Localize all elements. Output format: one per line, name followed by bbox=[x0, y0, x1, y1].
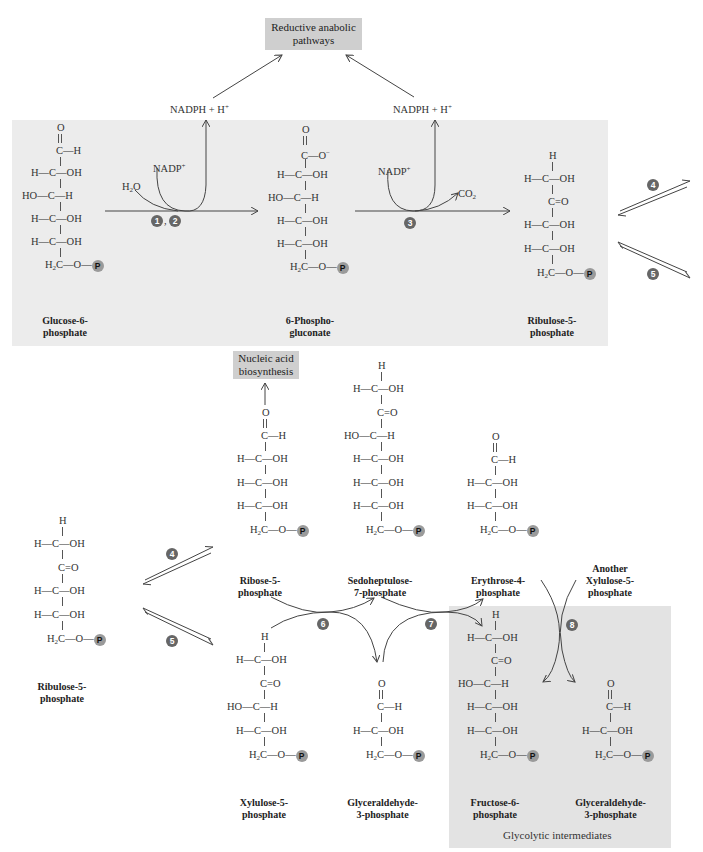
step-separator: , bbox=[164, 215, 167, 227]
nadph-product-1: NADPH + H+ bbox=[170, 101, 229, 116]
phosphate-badge: P bbox=[92, 260, 104, 272]
ribose-5-phosphate-label: Ribose-5-phosphate bbox=[225, 575, 295, 599]
ribulose-5-phosphate-top-label: Ribulose-5-phosphate bbox=[512, 315, 592, 339]
phosphate-badge: P bbox=[413, 750, 425, 762]
step-8-marker: 8 bbox=[566, 619, 578, 631]
h2o-reactant: H2O bbox=[122, 181, 141, 196]
step-2-marker: 2 bbox=[169, 215, 181, 227]
phosphate-badge: P bbox=[527, 750, 539, 762]
sedoheptulose-7-phosphate-label: Sedoheptulose-7-phosphate bbox=[335, 575, 425, 599]
step-3-marker: 3 bbox=[404, 217, 416, 229]
nadph-product-2: NADPH + H+ bbox=[393, 101, 452, 116]
glyceraldehyde-3-phosphate-b-label: Glyceraldehyde-3-phosphate bbox=[563, 797, 658, 821]
erythrose-4-phosphate-label: Erythrose-4-phosphate bbox=[458, 575, 538, 599]
6-phosphogluconate-label: 6-Phospho-gluconate bbox=[270, 315, 350, 339]
step-5-marker-bottom: 5 bbox=[166, 635, 178, 647]
phosphate-badge: P bbox=[642, 750, 654, 762]
step-4-marker-top: 4 bbox=[647, 179, 659, 191]
ribulose-5-phosphate-bottom-label: Ribulose-5-phosphate bbox=[22, 681, 102, 705]
phosphate-badge: P bbox=[527, 525, 539, 537]
step-7-marker: 7 bbox=[425, 618, 437, 630]
phosphate-badge: P bbox=[296, 750, 308, 762]
glyceraldehyde-3-phosphate-a-label: Glyceraldehyde-3-phosphate bbox=[335, 797, 430, 821]
nadp-reactant-1: NADP+ bbox=[153, 160, 186, 175]
phosphate-badge: P bbox=[413, 525, 425, 537]
nadp-reactant-2: NADP+ bbox=[378, 163, 411, 178]
xylulose-5-phosphate-label: Xylulose-5-phosphate bbox=[229, 797, 299, 821]
step-4-marker-bottom: 4 bbox=[166, 548, 178, 560]
co2-product: CO2 bbox=[458, 188, 476, 203]
glucose-6-phosphate-label: Glucose-6-phosphate bbox=[25, 315, 105, 339]
step-5-marker-top: 5 bbox=[647, 268, 659, 280]
step-6-marker: 6 bbox=[317, 618, 329, 630]
step-1-marker: 1 bbox=[151, 215, 163, 227]
phosphate-badge: P bbox=[337, 262, 349, 274]
phosphate-badge: P bbox=[584, 268, 596, 280]
another-xylulose-5-phosphate-label: AnotherXylulose-5-phosphate bbox=[575, 563, 645, 599]
fructose-6-phosphate-label: Fructose-6-phosphate bbox=[460, 797, 530, 821]
phosphate-badge: P bbox=[94, 634, 106, 646]
phosphate-badge: P bbox=[297, 525, 309, 537]
